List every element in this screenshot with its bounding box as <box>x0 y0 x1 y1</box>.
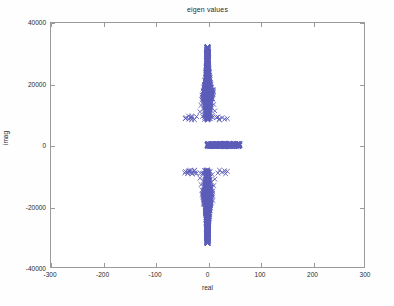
x-axis-label: real <box>50 284 365 291</box>
x-tick-label: -100 <box>148 271 161 278</box>
y-tick-label: 40000 <box>6 19 46 26</box>
y-tick-label: 20000 <box>6 80 46 87</box>
figure-canvas: eigen values -300-200-1000100200300 -400… <box>0 0 394 306</box>
x-tick-label: 200 <box>307 271 318 278</box>
scatter-marker <box>183 171 187 175</box>
scatter-marker <box>198 110 202 114</box>
y-tick-label: 0 <box>6 142 46 149</box>
scatter-marker <box>213 109 217 113</box>
y-tick-label: -20000 <box>6 203 46 210</box>
scatter-marker <box>213 177 217 181</box>
x-tick-label: 300 <box>360 271 371 278</box>
y-axis-label: imag <box>2 131 9 145</box>
x-tick-label: 0 <box>206 271 210 278</box>
plot-axes-box <box>50 22 365 268</box>
y-tick-label: -40000 <box>6 265 46 272</box>
x-tick-label: -300 <box>43 271 56 278</box>
scatter-series-eigenvalues <box>183 45 242 245</box>
x-tick-label: -200 <box>96 271 109 278</box>
chart-title: eigen values <box>50 6 365 13</box>
scatter-data-layer <box>51 23 364 267</box>
scatter-marker <box>198 176 202 180</box>
x-tick-label: 100 <box>255 271 266 278</box>
